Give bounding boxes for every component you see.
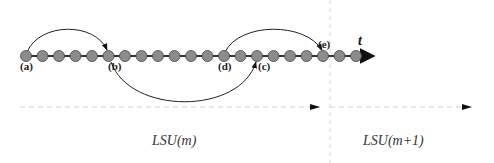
node-label-a: (a) <box>20 60 33 73</box>
timeline-node <box>334 51 345 62</box>
node-label-b: (b) <box>108 60 122 73</box>
segment-arrowhead-lsu-m <box>310 104 320 110</box>
timeline-node <box>202 51 213 62</box>
timeline-node <box>70 51 81 62</box>
segment-label-lsu-m1: LSU(m+1) <box>362 133 424 149</box>
timeline-node <box>285 51 296 62</box>
timeline-node <box>37 51 48 62</box>
timeline-node <box>136 51 147 62</box>
timeline-node <box>186 51 197 62</box>
timeline-node <box>235 51 246 62</box>
timeline-nodes <box>21 51 362 62</box>
timeline-node <box>153 51 164 62</box>
axis-label-t: t <box>358 33 363 48</box>
timeline-node <box>54 51 65 62</box>
timeline-node <box>351 51 362 62</box>
timeline-node <box>169 51 180 62</box>
lsu-timeline-diagram: (a) (b) (d) (c) (e) t LSU(m) LSU(m+1) <box>0 0 494 163</box>
timeline-node <box>318 51 329 62</box>
timeline-node <box>87 51 98 62</box>
node-label-e: (e) <box>318 38 331 51</box>
segment-arrowhead-lsu-m1 <box>462 104 472 110</box>
node-label-d: (d) <box>218 60 232 73</box>
segment-label-lsu-m: LSU(m) <box>151 133 197 149</box>
arc-a-to-b <box>27 29 107 52</box>
node-label-c: (c) <box>258 60 271 73</box>
arc-d-to-e <box>225 29 322 52</box>
timeline-node <box>301 51 312 62</box>
arc-b-to-c <box>111 62 256 102</box>
